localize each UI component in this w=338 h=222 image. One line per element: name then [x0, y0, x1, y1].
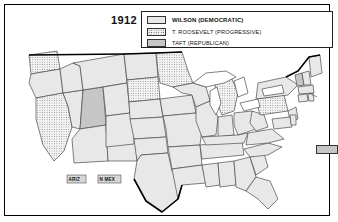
figure-frame: 1912 WILSON (DEMOCRATIC) T. ROOSEVELT (P…	[4, 4, 330, 216]
state-south-dakota	[127, 77, 160, 102]
state-virginia	[246, 129, 284, 145]
state-north-dakota	[124, 53, 158, 80]
legend-item-wilson: WILSON (DEMOCRATIC)	[147, 15, 332, 26]
lake-erie	[240, 99, 260, 111]
state-louisiana	[172, 165, 206, 199]
arizona-label: ARIZ	[69, 177, 81, 182]
legend-swatch-taft	[147, 39, 166, 47]
legend-item-roosevelt: T. ROOSEVELT (PROGRESSIVE)	[147, 27, 332, 38]
state-indiana	[218, 115, 234, 137]
legend-label-wilson: WILSON (DEMOCRATIC)	[172, 17, 243, 23]
map-states	[29, 51, 322, 212]
legend-label-taft: TAFT (REPUBLICAN)	[172, 40, 229, 46]
us-map-svg: ARIZ N MEX	[10, 49, 334, 220]
state-kansas	[130, 117, 166, 139]
state-utah	[80, 87, 106, 129]
new-mexico-label: N MEX	[100, 177, 116, 182]
state-alabama	[218, 161, 236, 187]
state-massachusetts	[298, 85, 314, 94]
legend-swatch-wilson	[147, 16, 166, 24]
map-state-labels: ARIZ N MEX	[67, 175, 121, 183]
state-iowa	[160, 95, 196, 116]
state-delaware	[290, 115, 296, 125]
state-maine	[309, 55, 322, 77]
state-connecticut	[298, 94, 308, 102]
state-idaho	[60, 63, 83, 93]
legend-label-roosevelt: T. ROOSEVELT (PROGRESSIVE)	[172, 29, 261, 35]
map-legend: WILSON (DEMOCRATIC) T. ROOSEVELT (PROGRE…	[141, 11, 333, 48]
map-year-label: 1912	[111, 14, 137, 26]
state-wyoming	[103, 83, 130, 116]
state-new-hampshire	[302, 71, 311, 85]
new-england-callout-box	[316, 145, 338, 154]
state-minnesota	[156, 52, 193, 87]
us-map: ARIZ N MEX	[10, 49, 334, 220]
legend-swatch-roosevelt	[147, 28, 166, 36]
state-nebraska	[129, 99, 163, 119]
state-north-carolina	[244, 143, 282, 157]
legend-item-taft: TAFT (REPUBLICAN)	[147, 38, 332, 49]
state-maryland	[272, 117, 292, 129]
state-arizona	[72, 125, 108, 163]
